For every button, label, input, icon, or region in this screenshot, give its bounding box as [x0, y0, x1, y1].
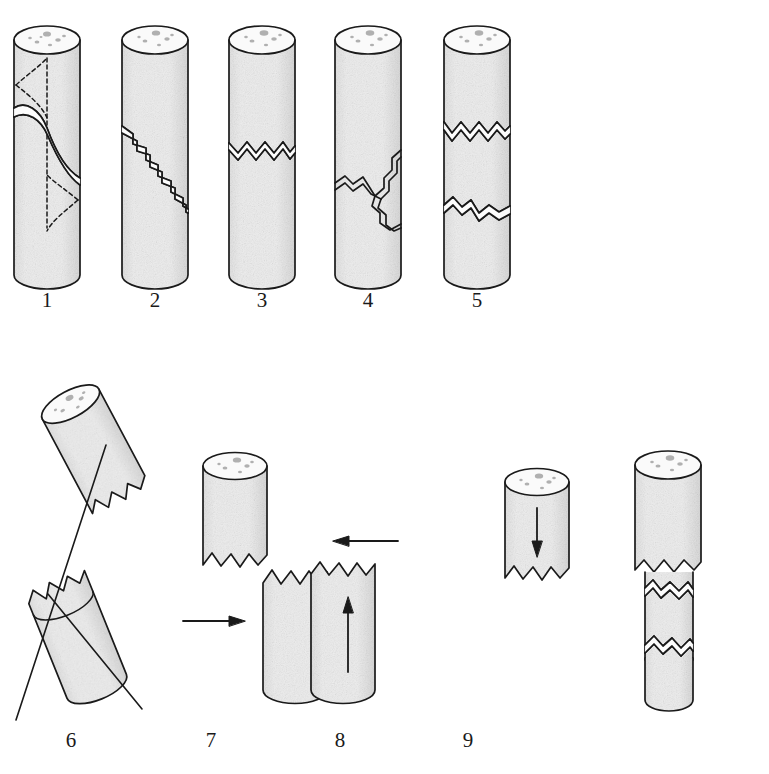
specimen-6-upper-piece	[36, 377, 150, 516]
specimen-1-group	[14, 26, 80, 289]
specimen-7-upper-piece	[203, 453, 267, 568]
specimen-label-6: 6	[51, 730, 91, 751]
specimen-label-2: 2	[135, 290, 175, 311]
specimen-8-lower-piece	[311, 562, 375, 704]
specimen-label-8: 8	[320, 730, 360, 751]
specimen-8-group	[311, 469, 569, 704]
specimen-9-group	[635, 451, 701, 711]
lower-right-arrow	[183, 616, 245, 626]
specimen-6-group	[16, 377, 150, 720]
upper-left-arrow	[333, 536, 398, 546]
specimen-2-group	[122, 26, 188, 289]
specimen-5-group	[444, 26, 510, 289]
specimen-label-7: 7	[191, 730, 231, 751]
specimen-label-4: 4	[348, 290, 388, 311]
specimen-4-group	[335, 26, 401, 289]
specimen-label-5: 5	[457, 290, 497, 311]
specimen-label-1: 1	[27, 290, 67, 311]
specimen-label-3: 3	[242, 290, 282, 311]
fracture-diagram-canvas	[0, 0, 769, 774]
specimen-3-group	[229, 26, 295, 289]
specimen-label-9: 9	[448, 730, 488, 751]
fracture-pattern-figure: 1 2 3 4 5 6 7 8 9	[0, 0, 769, 774]
specimen-6-lower-piece	[24, 569, 131, 711]
specimen-8-upper-piece	[505, 469, 569, 581]
